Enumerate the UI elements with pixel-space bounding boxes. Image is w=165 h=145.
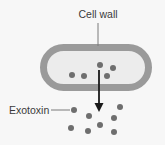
- exotoxin-dot: [68, 125, 74, 131]
- toxin-dot: [81, 73, 87, 79]
- cell-wall: [44, 48, 149, 88]
- exotoxin-dot: [86, 113, 92, 119]
- extracellular-exotoxin-dots: [68, 104, 123, 135]
- exotoxin-dot: [71, 107, 77, 113]
- cell-wall-label: Cell wall: [78, 8, 117, 20]
- exotoxin-dot: [85, 128, 91, 134]
- diagram-canvas: Cell wall Exotoxin: [0, 0, 165, 145]
- toxin-dot: [97, 62, 103, 68]
- exotoxin-dot: [111, 115, 117, 121]
- toxin-dot: [110, 65, 116, 71]
- exotoxin-label: Exotoxin: [9, 104, 49, 116]
- exotoxin-dot: [111, 129, 117, 135]
- toxin-dot: [104, 73, 110, 79]
- toxin-dot: [69, 72, 75, 78]
- exotoxin-dot: [97, 122, 103, 128]
- exotoxin-dot: [117, 104, 123, 110]
- exotoxin-secretion-diagram: Cell wall Exotoxin: [0, 0, 165, 145]
